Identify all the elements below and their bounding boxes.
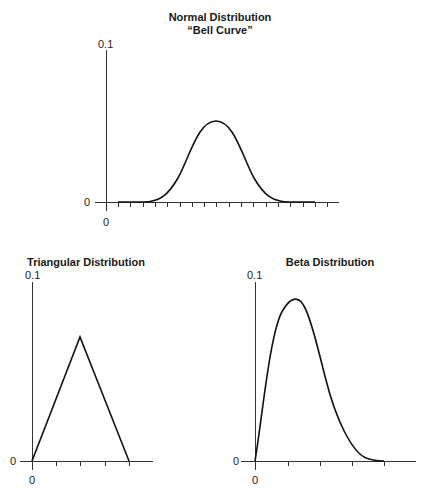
normal-curve (118, 121, 315, 202)
charts-graphics (0, 0, 437, 495)
triangular-curve (32, 337, 129, 461)
beta-curve (255, 299, 384, 461)
